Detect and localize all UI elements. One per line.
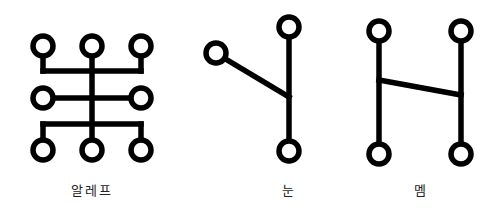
nun-label: 눈 — [282, 180, 296, 199]
mem-figure — [369, 21, 471, 164]
aleph-label: 알레프 — [71, 180, 113, 199]
aleph-figure — [33, 36, 151, 160]
mem-label: 멤 — [414, 180, 428, 199]
nun-figure — [206, 17, 299, 161]
